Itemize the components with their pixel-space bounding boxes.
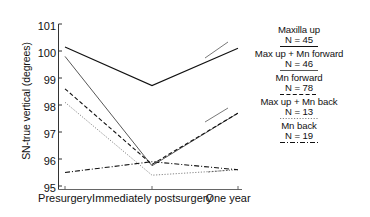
leader-line-2	[205, 108, 228, 122]
series-line-mn-forward	[65, 89, 238, 165]
series-line-mn-back	[65, 162, 238, 173]
leader-line-1	[205, 42, 228, 58]
line-chart-figure: SN-true vertical (degrees) 101 100 99 98…	[0, 0, 370, 217]
y-tick-marks	[59, 24, 63, 186]
x-tick-marks	[65, 186, 238, 190]
data-series-layer	[65, 47, 238, 175]
series-line-max-up-mn-back	[65, 102, 238, 175]
plot-area	[0, 0, 370, 217]
leader-line-3	[208, 170, 230, 172]
